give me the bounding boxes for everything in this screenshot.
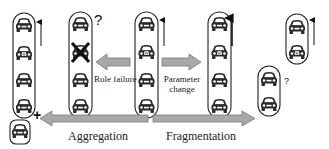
platoon-fragment-upper [286,14,314,64]
parameter-change-arrow-icon [162,54,201,70]
joining-car [10,120,30,144]
parameter-change-line1: Parameter [160,74,204,84]
unknown-mark: ? [284,76,289,86]
aggregation-label: Aggregation [68,129,128,144]
fragmentation-label: Fragmentation [166,129,236,144]
aggregation-arrow-icon [40,111,148,126]
platoon-role-failure [69,12,92,118]
role-failure-arrow-icon [96,54,130,70]
plus-mark: + [33,107,41,123]
platoon-aggregated [13,13,41,118]
parameter-change-line2: change [160,84,204,94]
platoon-parameter-changed [208,12,232,118]
role-failure-label: Role failure [94,74,134,84]
unknown-mark: ? [94,11,102,28]
platoon-fragment-lower [258,66,280,116]
parameter-change-label: Parameter change [160,74,204,94]
platoon-original [135,12,164,118]
fragmentation-arrow-icon [153,111,255,126]
